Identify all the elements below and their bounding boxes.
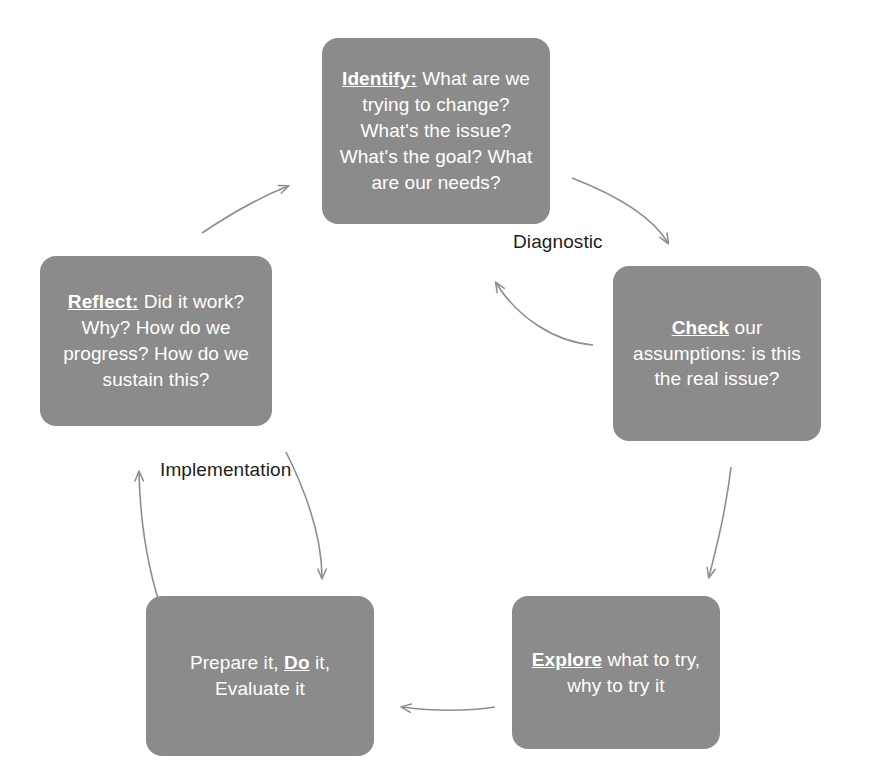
node-reflect[interactable]: Reflect: Did it work? Why? How do we pro… xyxy=(40,256,272,426)
node-reflect-text: Reflect: Did it work? Why? How do we pro… xyxy=(52,289,260,392)
cycle-diagram-canvas: Identify: What are we trying to change? … xyxy=(0,0,869,775)
arrow-reflect-to-identify xyxy=(202,186,288,233)
node-check[interactable]: Check our assumptions: is this the real … xyxy=(613,266,821,441)
node-explore[interactable]: Explore what to try, why to try it xyxy=(512,596,720,749)
node-do[interactable]: Prepare it, Do it, Evaluate it xyxy=(146,596,374,756)
arrow-explore-to-do xyxy=(402,707,495,710)
node-explore-keyword: Explore xyxy=(532,649,602,670)
node-do-prefix: Prepare it, xyxy=(190,652,284,673)
node-explore-text: Explore what to try, why to try it xyxy=(524,647,708,699)
node-do-keyword: Do xyxy=(284,652,310,673)
arrow-reflect-to-do xyxy=(286,452,322,578)
node-identify-text: Identify: What are we trying to change? … xyxy=(334,66,538,195)
arrow-check-to-explore xyxy=(709,467,731,577)
node-reflect-keyword: Reflect: xyxy=(68,291,138,312)
arrow-check-to-identify xyxy=(496,283,593,345)
node-identify[interactable]: Identify: What are we trying to change? … xyxy=(322,38,550,224)
node-identify-keyword: Identify: xyxy=(342,68,417,89)
node-check-keyword: Check xyxy=(672,317,730,338)
node-check-text: Check our assumptions: is this the real … xyxy=(625,315,809,392)
phase-label-implementation: Implementation xyxy=(160,459,291,481)
node-do-text: Prepare it, Do it, Evaluate it xyxy=(158,650,362,702)
phase-label-diagnostic: Diagnostic xyxy=(513,231,603,253)
